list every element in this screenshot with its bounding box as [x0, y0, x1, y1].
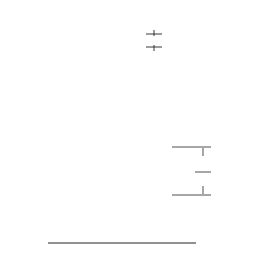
- panel-a: [146, 30, 162, 51]
- diffraction-figure: [0, 0, 273, 264]
- period-marker: [172, 147, 211, 195]
- panel-b: [48, 147, 211, 243]
- spacing-marker: [146, 30, 162, 51]
